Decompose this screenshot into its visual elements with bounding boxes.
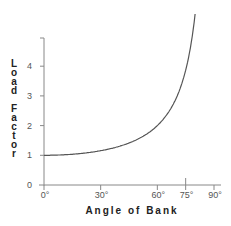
x-tick-label: 75° bbox=[180, 190, 194, 200]
y-tick-label: 3 bbox=[27, 91, 32, 101]
axes bbox=[39, 38, 221, 186]
x-axis-title: Angle of Bank bbox=[85, 205, 178, 216]
y-axis-title-letter: d bbox=[11, 85, 17, 96]
x-tick-label: 0° bbox=[41, 190, 50, 200]
y-axis-title: LoadFactor bbox=[11, 58, 17, 159]
y-axis-ticks: 01234 bbox=[27, 61, 44, 190]
load-factor-chart: 01234 0°30°60°75°90° Angle of Bank LoadF… bbox=[0, 0, 231, 226]
y-tick-label: 0 bbox=[27, 180, 32, 190]
y-axis-title-letter: r bbox=[12, 148, 16, 159]
load-factor-curve bbox=[44, 14, 195, 155]
x-tick-label: 90° bbox=[208, 190, 222, 200]
y-tick-label: 2 bbox=[27, 121, 32, 131]
x-axis-ticks: 0°30°60°75°90° bbox=[41, 178, 223, 200]
x-tick-label: 60° bbox=[152, 190, 166, 200]
y-tick-label: 4 bbox=[27, 61, 32, 71]
x-tick-label: 30° bbox=[95, 190, 109, 200]
y-tick-label: 1 bbox=[27, 150, 32, 160]
